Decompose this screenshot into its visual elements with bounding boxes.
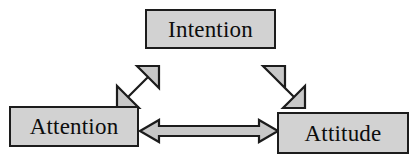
connector-attention-intention (117, 66, 159, 108)
double-headed-arrow-shape (140, 120, 278, 142)
node-intention-label: Intention (168, 18, 253, 41)
connector-intention-attitude (263, 66, 305, 108)
node-attention-label: Attention (30, 115, 119, 138)
node-attitude-label: Attitude (305, 122, 382, 145)
node-intention[interactable]: Intention (145, 9, 276, 49)
double-headed-arrow-shape (263, 66, 305, 108)
diagram-canvas: Intention Attention Attitude (0, 0, 417, 162)
connector-attention-attitude (140, 120, 278, 142)
node-attention[interactable]: Attention (9, 106, 139, 147)
double-headed-arrow-shape (117, 66, 159, 108)
node-attitude[interactable]: Attitude (277, 112, 409, 154)
